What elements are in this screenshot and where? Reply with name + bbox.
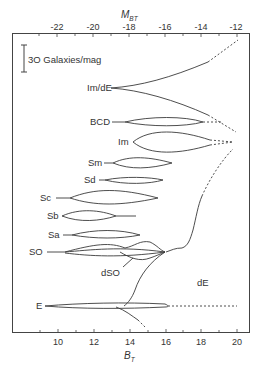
scale-bar-label: 3O Galaxies/mag	[28, 55, 101, 65]
bottom-axis-title: BT	[124, 351, 135, 364]
top-tick-label: -16	[158, 23, 171, 32]
label-e: E	[36, 301, 42, 311]
label-sa: Sa	[48, 230, 60, 240]
top-axis-title: MBT	[121, 10, 138, 23]
label-so: SO	[29, 247, 43, 257]
bottom-tick-label: 18	[196, 338, 206, 347]
curve-bcd	[112, 118, 222, 126]
top-tick-label: -22	[50, 23, 63, 32]
label-sc: Sc	[40, 193, 51, 203]
curve-sd	[99, 177, 163, 183]
curve-sb	[62, 211, 136, 221]
label-de: dE	[197, 278, 209, 288]
curve-sm	[104, 158, 172, 168]
label-sm: Sm	[88, 158, 102, 168]
dso-leader-line	[123, 258, 133, 267]
bottom-tick-label: 20	[232, 338, 242, 347]
curve-sa	[63, 231, 140, 239]
top-tick-label: -12	[229, 23, 242, 32]
scale-bar	[21, 45, 27, 72]
curve-de	[124, 149, 233, 306]
bottom-tick-label: 12	[89, 338, 99, 347]
label-sd: Sd	[84, 175, 96, 185]
label-im-de: Im/dE	[87, 83, 112, 93]
bottom-tick-label: 14	[125, 338, 135, 347]
label-im: Im	[118, 137, 129, 147]
curve-e	[45, 303, 237, 327]
curve-so	[47, 242, 165, 260]
top-tick-label: -14	[194, 23, 207, 32]
bottom-tick-label: 10	[53, 338, 63, 347]
bottom-tick-label: 16	[161, 338, 171, 347]
label-dso: dSO	[101, 268, 120, 278]
top-tick-label: -20	[86, 23, 99, 32]
curve-sc	[56, 191, 158, 205]
label-sb: Sb	[47, 211, 59, 221]
curve-im	[133, 132, 233, 152]
top-tick-label: -18	[122, 23, 135, 32]
curve-im-de	[111, 40, 238, 132]
label-bcd: BCD	[90, 117, 110, 127]
